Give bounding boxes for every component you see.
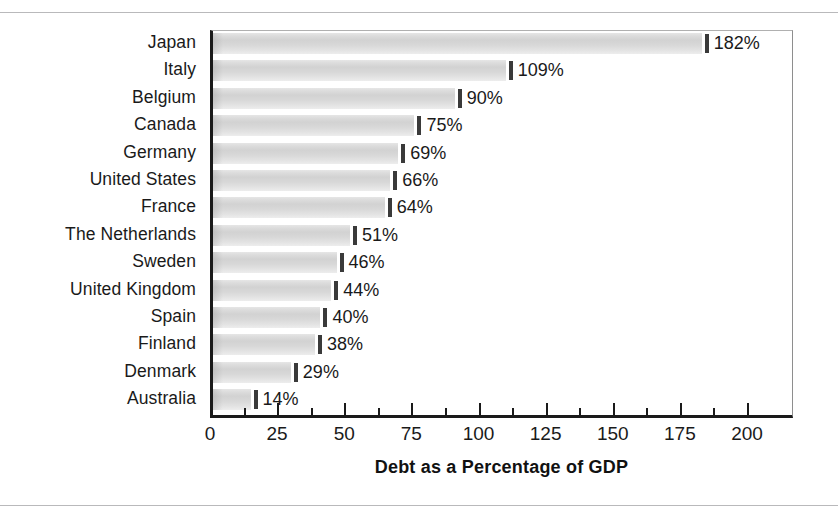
page-rule-top xyxy=(0,12,838,13)
category-label: Spain xyxy=(151,306,196,326)
bar-row: 75% xyxy=(213,115,793,136)
x-axis-tick-marks xyxy=(210,403,793,417)
bar xyxy=(213,334,315,355)
x-tick-label: 200 xyxy=(731,422,763,446)
x-tick-minor xyxy=(378,408,380,417)
x-tick-major xyxy=(411,403,413,417)
x-tick-major xyxy=(613,403,615,417)
x-tick-label: 150 xyxy=(597,422,629,446)
x-tick-label: 25 xyxy=(267,422,288,446)
x-tick-major xyxy=(344,403,346,417)
x-tick-major xyxy=(680,403,682,417)
page-rule-bottom xyxy=(0,505,838,506)
bar-end-marker xyxy=(318,335,322,354)
bar-row: 51% xyxy=(213,225,793,246)
bar-value-label: 69% xyxy=(410,142,446,164)
bar xyxy=(213,197,385,218)
category-label: Canada xyxy=(134,114,196,134)
x-tick-label: 125 xyxy=(530,422,562,446)
bar-row: 69% xyxy=(213,143,793,164)
bar-value-label: 46% xyxy=(349,251,385,273)
category-label: United States xyxy=(90,169,196,189)
bar xyxy=(213,115,414,136)
x-tick-minor xyxy=(445,408,447,417)
x-tick-major xyxy=(747,403,749,417)
x-tick-label: 75 xyxy=(401,422,422,446)
bar-row: 29% xyxy=(213,362,793,383)
chart-figure: JapanItalyBelgiumCanadaGermanyUnited Sta… xyxy=(0,0,838,523)
bar xyxy=(213,170,390,191)
bar-row: 90% xyxy=(213,88,793,109)
bar-value-label: 51% xyxy=(362,224,398,246)
x-tick-minor xyxy=(713,408,715,417)
bar-row: 40% xyxy=(213,307,793,328)
category-label: France xyxy=(141,196,196,216)
bar xyxy=(213,88,455,109)
bar-end-marker xyxy=(393,171,397,190)
category-label: The Netherlands xyxy=(65,224,196,244)
category-label: Australia xyxy=(127,388,196,408)
bar xyxy=(213,252,337,273)
x-tick-minor xyxy=(311,408,313,417)
bar-value-label: 182% xyxy=(714,32,760,54)
category-label: United Kingdom xyxy=(70,279,196,299)
category-label: Japan xyxy=(148,32,196,52)
bar-value-label: 109% xyxy=(518,59,564,81)
x-tick-major xyxy=(546,403,548,417)
x-axis-title: Debt as a Percentage of GDP xyxy=(210,457,793,478)
bar xyxy=(213,143,398,164)
bar-row: 46% xyxy=(213,252,793,273)
bar-end-marker xyxy=(417,116,421,135)
bar xyxy=(213,307,320,328)
bar-end-marker xyxy=(334,281,338,300)
category-label: Germany xyxy=(123,142,196,162)
category-label: Sweden xyxy=(132,251,196,271)
bar-value-label: 44% xyxy=(343,279,379,301)
bar-end-marker xyxy=(388,198,392,217)
x-axis-tick-labels: 0255075100125150175200 xyxy=(0,422,838,450)
x-tick-major xyxy=(210,403,212,417)
x-tick-major xyxy=(479,403,481,417)
bar-row: 38% xyxy=(213,334,793,355)
bar-row: 64% xyxy=(213,197,793,218)
bar-value-label: 90% xyxy=(467,87,503,109)
bar-end-marker xyxy=(340,253,344,272)
category-label: Italy xyxy=(163,59,196,79)
bar-row: 44% xyxy=(213,280,793,301)
x-tick-minor xyxy=(646,408,648,417)
category-label: Denmark xyxy=(124,361,196,381)
x-tick-minor xyxy=(244,408,246,417)
bar xyxy=(213,33,702,54)
category-label: Belgium xyxy=(132,87,196,107)
x-tick-label: 100 xyxy=(463,422,495,446)
bar-row: 66% xyxy=(213,170,793,191)
bar-end-marker xyxy=(705,34,709,53)
bar-value-label: 64% xyxy=(397,196,433,218)
bar-end-marker xyxy=(458,89,462,108)
bar-row: 109% xyxy=(213,60,793,81)
x-tick-minor xyxy=(579,408,581,417)
category-label: Finland xyxy=(138,333,196,353)
x-tick-label: 0 xyxy=(205,422,216,446)
bar-end-marker xyxy=(323,308,327,327)
bar-value-label: 40% xyxy=(332,306,368,328)
bar xyxy=(213,225,350,246)
bar-value-label: 29% xyxy=(303,361,339,383)
bar-row: 182% xyxy=(213,33,793,54)
x-tick-label: 50 xyxy=(334,422,355,446)
bar xyxy=(213,60,506,81)
bar-end-marker xyxy=(401,144,405,163)
x-tick-major xyxy=(277,403,279,417)
bar xyxy=(213,362,291,383)
bar-value-label: 66% xyxy=(402,169,438,191)
bar-end-marker xyxy=(509,61,513,80)
x-tick-label: 175 xyxy=(664,422,696,446)
bar-value-label: 75% xyxy=(426,114,462,136)
bar-value-label: 38% xyxy=(327,333,363,355)
bar-end-marker xyxy=(294,363,298,382)
y-axis-category-labels: JapanItalyBelgiumCanadaGermanyUnited Sta… xyxy=(0,30,196,413)
x-tick-minor xyxy=(512,408,514,417)
bar xyxy=(213,280,331,301)
bars-layer: 182%109%90%75%69%66%64%51%46%44%40%38%29… xyxy=(213,30,793,413)
bar-end-marker xyxy=(353,226,357,245)
